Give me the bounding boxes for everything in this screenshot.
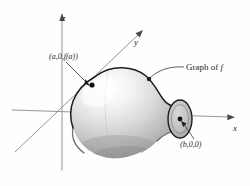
graph-callout-leader <box>150 67 184 78</box>
graph-callout-prefix: Graph of <box>186 62 221 72</box>
x-axis-label: x <box>233 124 237 133</box>
y-axis-label: y <box>134 38 138 47</box>
figure-canvas: z y x (a,0,f(a)) (b,0,0) Graph of f <box>0 0 250 186</box>
surface-of-revolution <box>71 68 192 170</box>
point-b-dot <box>178 117 183 122</box>
point-a-group <box>66 62 95 88</box>
graph-callout-group <box>147 67 184 81</box>
figure-svg <box>0 0 250 186</box>
graph-callout-symbol: f <box>221 62 224 72</box>
x-arrowhead <box>227 114 235 120</box>
point-b-label: (b,0,0) <box>180 141 201 149</box>
point-a-label: (a,0,f(a)) <box>49 53 78 61</box>
point-a-dot <box>89 82 94 87</box>
graph-callout-label: Graph of f <box>186 63 223 72</box>
surface-bottom-shadow-2 <box>92 146 160 170</box>
z-axis-label: z <box>62 14 66 23</box>
point-a-leader <box>66 62 88 84</box>
graph-callout-dot <box>147 77 151 81</box>
